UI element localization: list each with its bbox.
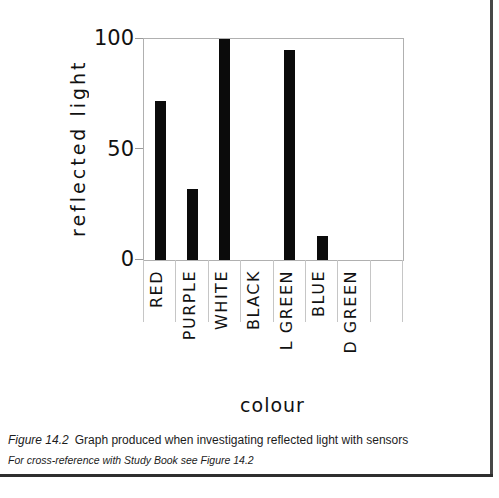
- figure-caption: Figure 14.2Graph produced when investiga…: [8, 433, 408, 447]
- category-separator: [370, 260, 371, 322]
- page-bottom-rule: [0, 474, 493, 477]
- bar-blue: [317, 236, 328, 260]
- x-label-purple: PURPLE: [182, 270, 198, 340]
- page-edge-line: [490, 0, 493, 476]
- y-tick-0: [135, 259, 143, 260]
- y-tick-label-50: 50: [0, 139, 134, 160]
- category-separator: [273, 260, 274, 322]
- reflected-light-bar-chart: reflected light colour 050100REDPURPLEWH…: [0, 0, 499, 430]
- y-tick-label-100: 100: [0, 28, 134, 49]
- x-label-red: RED: [149, 270, 165, 308]
- figure-number: Figure 14.2: [8, 433, 69, 447]
- bar-purple: [187, 189, 198, 260]
- scanned-page: reflected light colour 050100REDPURPLEWH…: [0, 0, 499, 498]
- plot-area: [143, 38, 404, 261]
- category-separator: [208, 260, 209, 322]
- bar-white: [219, 39, 230, 260]
- cross-reference-note: For cross-reference with Study Book see …: [8, 454, 254, 466]
- y-tick-label-0: 0: [0, 249, 134, 270]
- category-separator: [143, 260, 144, 322]
- category-separator: [337, 260, 338, 322]
- category-separator: [240, 260, 241, 322]
- category-separator: [175, 260, 176, 322]
- category-separator: [402, 260, 403, 322]
- x-label-black: BLACK: [246, 270, 262, 330]
- x-label-l-green: L GREEN: [279, 270, 295, 350]
- x-label-white: WHITE: [214, 270, 230, 330]
- y-tick-50: [135, 148, 143, 149]
- category-separator: [305, 260, 306, 322]
- x-label-blue: BLUE: [311, 270, 327, 317]
- x-axis-title: colour: [143, 394, 402, 416]
- y-tick-100: [135, 38, 143, 39]
- bar-l-green: [284, 50, 295, 260]
- figure-caption-text: Graph produced when investigating reflec…: [75, 433, 409, 447]
- bar-red: [155, 101, 166, 260]
- x-label-d-green: D GREEN: [343, 270, 359, 354]
